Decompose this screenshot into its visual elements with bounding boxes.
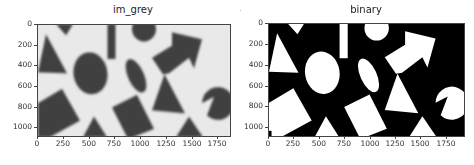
- y-tick-mark: [265, 86, 268, 87]
- x-tick-label: 1750: [431, 140, 461, 148]
- image-axes: [268, 23, 465, 137]
- y-tick-mark: [265, 106, 268, 107]
- y-tick-label: 1000: [233, 123, 263, 131]
- y-tick-label: 200: [233, 40, 263, 48]
- plot-title: binary: [266, 4, 466, 15]
- y-tick-mark: [265, 65, 268, 66]
- y-tick-mark: [265, 23, 268, 24]
- y-tick-label: 400: [233, 61, 263, 69]
- y-tick-mark: [265, 44, 268, 45]
- y-tick-mark: [265, 127, 268, 128]
- binary-image: [269, 24, 464, 136]
- y-tick-label: 800: [233, 102, 263, 110]
- panel-binary: binary 0 200 400: [0, 0, 474, 165]
- y-tick-label: 0: [233, 19, 263, 27]
- y-tick-label: 600: [233, 82, 263, 90]
